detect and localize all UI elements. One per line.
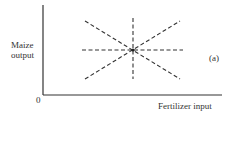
- panel-label: (a): [209, 53, 219, 63]
- y-axis-label-line1: Maize: [11, 40, 34, 50]
- y-axis-label: Maize output: [11, 40, 34, 60]
- diagram-canvas: [0, 0, 230, 141]
- x-axis-label: Fertilizer input: [158, 101, 212, 111]
- center-point: [131, 48, 134, 51]
- y-axis-label-line2: output: [11, 50, 34, 60]
- origin-label: 0: [36, 95, 41, 105]
